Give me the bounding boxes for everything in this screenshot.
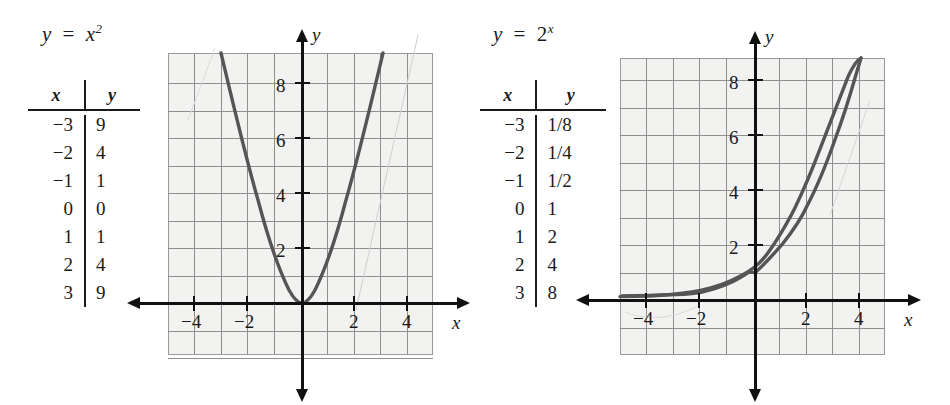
x-tick-2	[805, 293, 807, 308]
y-tick-2	[748, 244, 763, 246]
gridline-vertical	[327, 53, 328, 355]
x-tick-label-4: 4	[402, 312, 412, 331]
y-axis-line	[754, 44, 757, 391]
x-tick-4	[406, 296, 408, 311]
y-tick-label-2: 2	[729, 238, 739, 257]
y-tick-8	[295, 82, 310, 84]
y-tick-label-8: 8	[729, 73, 739, 92]
graph-exponential: 8 6 4 2 −4 −2 2 4 y x	[475, 0, 950, 405]
x-tick-2	[353, 296, 355, 311]
y-axis-arrow-up	[749, 31, 761, 44]
y-axis-arrow-down	[749, 389, 761, 402]
y-tick-label-6: 6	[729, 128, 739, 147]
plot-grid-background	[620, 58, 885, 355]
y-tick-8	[748, 79, 763, 81]
x-tick-label-minus2: −2	[234, 312, 254, 331]
y-tick-label-6: 6	[276, 131, 286, 150]
x-tick-minus2	[246, 296, 248, 311]
gridline-vertical	[673, 58, 674, 355]
y-axis-arrow-down	[296, 389, 308, 402]
x-axis-label: x	[452, 313, 460, 332]
x-axis-arrow-left	[127, 297, 140, 309]
y-axis-arrow-up	[296, 29, 308, 42]
gridline-horizontal	[620, 163, 885, 164]
gridline-vertical	[832, 58, 833, 355]
y-tick-4	[748, 189, 763, 191]
y-axis-label: y	[765, 27, 773, 46]
y-tick-label-4: 4	[276, 186, 286, 205]
x-tick-label-2: 2	[801, 309, 811, 328]
gridline-horizontal	[620, 218, 885, 219]
x-tick-label-minus4: −4	[181, 312, 201, 331]
x-tick-label-minus4: −4	[633, 309, 653, 328]
x-axis-line	[139, 302, 459, 305]
panel-exponential: y = 2x x y −3 1/8 −2 1/4 −1 1/2 0	[475, 0, 950, 405]
gridline-vertical	[779, 58, 780, 355]
y-tick-label-2: 2	[276, 241, 286, 260]
y-tick-6	[295, 137, 310, 139]
gridline-vertical	[380, 53, 381, 355]
x-tick-label-minus2: −2	[686, 309, 706, 328]
graph-parabola: 8 6 4 2 −4 −2 2 4 y x	[0, 0, 475, 405]
gridline-horizontal	[620, 273, 885, 274]
gridline-vertical	[221, 53, 222, 355]
gridline-vertical	[274, 53, 275, 355]
x-axis-arrow-right	[908, 294, 921, 306]
gridline-horizontal	[620, 328, 885, 329]
x-tick-label-4: 4	[854, 309, 864, 328]
y-tick-2	[295, 247, 310, 249]
x-tick-label-2: 2	[349, 312, 359, 331]
gridline-horizontal	[620, 108, 885, 109]
y-axis-line	[301, 42, 304, 391]
gridline-vertical	[726, 58, 727, 355]
y-tick-6	[748, 134, 763, 136]
x-axis-arrow-right	[457, 297, 470, 309]
x-axis-arrow-left	[576, 294, 589, 306]
x-tick-minus4	[193, 296, 195, 311]
y-axis-label: y	[312, 25, 320, 44]
y-tick-4	[295, 192, 310, 194]
y-tick-label-4: 4	[729, 183, 739, 202]
x-tick-minus2	[698, 293, 700, 308]
x-tick-4	[858, 293, 860, 308]
x-axis-label: x	[904, 310, 912, 329]
x-axis-line	[588, 299, 910, 302]
y-tick-label-8: 8	[276, 76, 286, 95]
panel-parabola: y = x2 x y −3 9 −2 4 −1 1 0	[0, 0, 475, 405]
x-tick-minus4	[645, 293, 647, 308]
